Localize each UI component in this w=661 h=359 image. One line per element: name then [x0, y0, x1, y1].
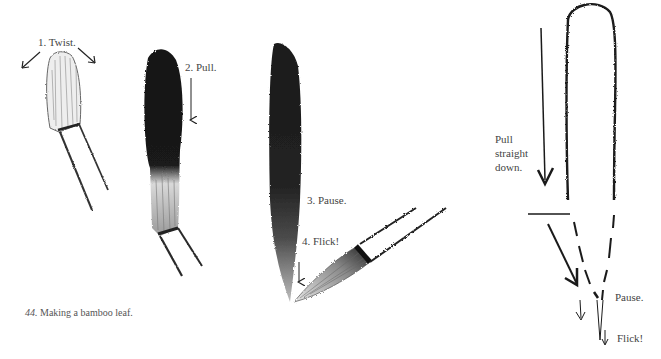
figure-caption: 44. Making a bamboo leaf.	[25, 306, 133, 320]
pause-label: Pause.	[615, 290, 643, 304]
brush-twist	[22, 48, 108, 210]
brush-stroke-leaf	[269, 43, 301, 302]
flick-label: Flick!	[617, 331, 643, 345]
bamboo-leaf-figure: 1. Twist. 2. Pull. 3. Pause. 4. Flick! P…	[0, 0, 661, 359]
twist-arrow-left-icon	[22, 52, 40, 68]
step-2-label: 2. Pull.	[185, 60, 216, 74]
brush-flick	[294, 208, 446, 302]
caption-text: Making a bamboo leaf.	[40, 307, 133, 318]
brush-pull	[144, 49, 202, 276]
pull-down-arrow-icon	[541, 28, 545, 180]
leaf-outline-diagram	[528, 4, 615, 345]
diagonal-arrow-icon	[548, 224, 577, 284]
step-3-label: 3. Pause.	[307, 193, 346, 207]
twist-arrow-right-icon	[78, 48, 95, 63]
pull-label-line3: down.	[495, 160, 522, 174]
caption-number: 44.	[25, 307, 38, 318]
step-1-label: 1. Twist.	[38, 35, 76, 49]
pull-label-line1: Pull	[495, 132, 513, 146]
step-4-label: 4. Flick!	[302, 234, 339, 248]
pull-label-line2: straight	[495, 146, 528, 160]
